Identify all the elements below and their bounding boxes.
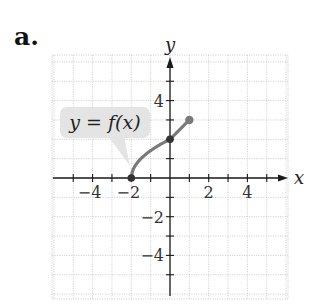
x-axis-label: x (294, 167, 304, 188)
y-axis-arrow-icon (167, 57, 174, 68)
point-marker (185, 116, 193, 124)
callout-label: y = f(x) (68, 111, 140, 133)
x-tick-label: −4 (78, 183, 102, 202)
callout-tail (108, 136, 130, 166)
point-marker (166, 136, 174, 144)
axes (53, 57, 288, 296)
x-tick-label: −2 (117, 183, 141, 202)
x-tick-label: 4 (242, 183, 252, 202)
callout: y = f(x) (60, 107, 150, 166)
point-marker (128, 174, 136, 182)
chart-plot: −4−2244−2−4 y = f(x) x y (0, 0, 318, 305)
x-tick-label: 2 (204, 183, 214, 202)
y-tick-label: 4 (154, 92, 164, 111)
y-tick-label: −4 (140, 246, 164, 265)
y-tick-label: −2 (140, 208, 164, 227)
y-axis-label: y (164, 34, 176, 55)
